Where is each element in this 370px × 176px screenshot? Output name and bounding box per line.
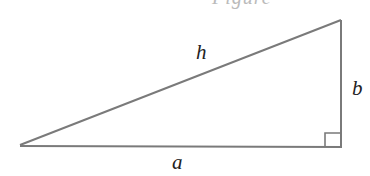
right-angle-marker [325, 133, 341, 147]
horizontal-leg-line [20, 146, 341, 147]
horizontal-leg-label: a [172, 152, 183, 173]
right-triangle-diagram [0, 0, 370, 176]
vertical-leg-label: b [352, 78, 363, 99]
hypotenuse-label: h [196, 42, 207, 63]
hypotenuse-line [20, 20, 341, 145]
